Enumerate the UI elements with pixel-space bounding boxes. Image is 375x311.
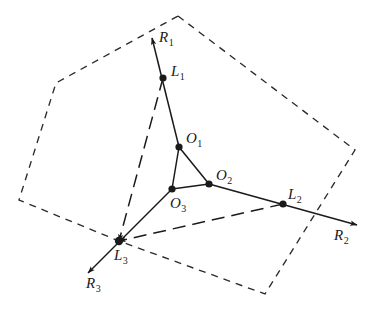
point-label-l2: L2 bbox=[288, 187, 302, 205]
figure-root: O1O2O3L1L2L3 R1R2R3 bbox=[0, 0, 375, 311]
triangle-outline bbox=[172, 147, 209, 189]
vertex-dot-L1 bbox=[159, 74, 166, 81]
label-letter: R bbox=[334, 227, 343, 243]
label-subscript: 3 bbox=[181, 203, 187, 214]
long-dash-L1-to-L3 bbox=[119, 78, 163, 241]
label-letter: R bbox=[159, 29, 168, 45]
label-subscript: 2 bbox=[227, 175, 233, 186]
vertex-dot-O1 bbox=[175, 143, 182, 150]
label-letter: R bbox=[86, 275, 95, 291]
ray-O1-L1-R1 bbox=[152, 38, 179, 147]
point-label-l1: L1 bbox=[171, 64, 185, 82]
ray-label-r3: R3 bbox=[86, 276, 101, 294]
dashed-hexagon-boundary bbox=[19, 16, 355, 294]
hexagon-outline bbox=[19, 16, 355, 294]
label-letter: O bbox=[186, 130, 197, 146]
label-subscript: 1 bbox=[197, 138, 203, 149]
point-label-o1: O1 bbox=[186, 131, 202, 149]
vertex-dot-O2 bbox=[205, 180, 212, 187]
label-subscript: 1 bbox=[168, 37, 174, 48]
ray-label-r2: R2 bbox=[334, 228, 349, 246]
ray-label-r1: R1 bbox=[159, 30, 174, 48]
label-subscript: 2 bbox=[296, 194, 302, 205]
label-subscript: 2 bbox=[343, 235, 349, 246]
label-subscript: 3 bbox=[122, 255, 128, 266]
vertex-dot-L3 bbox=[115, 237, 123, 245]
long-dash-L2-to-L3 bbox=[119, 204, 283, 241]
label-letter: O bbox=[216, 167, 227, 183]
label-letter: O bbox=[170, 195, 181, 211]
label-subscript: 3 bbox=[95, 283, 101, 294]
geometry-figure bbox=[0, 0, 375, 311]
central-triangle bbox=[172, 147, 209, 189]
vertex-dot-L2 bbox=[279, 200, 286, 207]
point-label-o3: O3 bbox=[170, 196, 186, 214]
label-subscript: 1 bbox=[179, 71, 185, 82]
vertex-dot-O3 bbox=[168, 185, 175, 192]
solid-rays bbox=[88, 38, 357, 273]
point-label-l3: L3 bbox=[114, 248, 128, 266]
point-label-o2: O2 bbox=[216, 168, 232, 186]
